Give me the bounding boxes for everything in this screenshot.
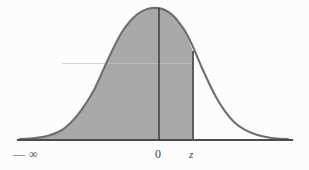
distribution-chart xyxy=(0,0,309,170)
shaded-area-under-curve xyxy=(20,8,193,139)
normal-curve-figure: — ∞ 0 z xyxy=(0,0,309,170)
mean-zero-label: 0 xyxy=(155,148,161,160)
z-value-label: z xyxy=(189,149,193,160)
negative-infinity-label: — ∞ xyxy=(13,148,38,160)
